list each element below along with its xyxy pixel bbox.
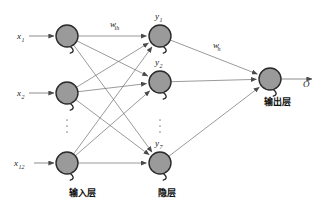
node-group bbox=[56, 25, 281, 180]
node-input-2 bbox=[56, 152, 78, 180]
edge-input0-hidden2 bbox=[73, 45, 152, 152]
node-circle-input-1 bbox=[56, 82, 78, 104]
w-input-hidden-label-sub: ih bbox=[115, 25, 120, 31]
node-circle-output-0 bbox=[259, 68, 281, 90]
edge-input1-hidden1 bbox=[78, 84, 147, 92]
node-shadow-input-1 bbox=[70, 103, 73, 110]
node-circle-input-0 bbox=[56, 25, 78, 47]
w-input-hidden-label: wih bbox=[110, 19, 119, 31]
hidden-label-1: y2 bbox=[154, 57, 163, 69]
input-label-2-base: x bbox=[13, 158, 18, 168]
hidden-label-0: y1 bbox=[154, 11, 163, 23]
node-shadow-output-0 bbox=[273, 89, 276, 96]
hidden-label-1-sub: 2 bbox=[160, 63, 163, 69]
node-hidden-1 bbox=[149, 71, 171, 99]
output-signal-label: O bbox=[303, 79, 310, 89]
node-shadow-input-0 bbox=[70, 46, 73, 53]
node-shadow-input-2 bbox=[70, 173, 73, 180]
w-hidden-output-label: wh bbox=[213, 40, 221, 52]
ellipsis-dot-input-0 bbox=[66, 119, 68, 121]
node-shadow-hidden-1 bbox=[163, 92, 166, 99]
input-label-1-sub: 2 bbox=[22, 94, 25, 100]
ellipsis-dot-input-1 bbox=[66, 125, 68, 127]
input-hidden-edge-group bbox=[73, 36, 152, 163]
node-circle-hidden-1 bbox=[149, 71, 171, 93]
edge-input2-hidden0 bbox=[73, 47, 152, 154]
ellipsis-group bbox=[66, 119, 161, 133]
ellipsis-dot-input-2 bbox=[66, 131, 68, 133]
node-input-0 bbox=[56, 25, 78, 53]
layer-caption-output: 输出层 bbox=[264, 96, 291, 107]
ellipsis-dot-hidden-0 bbox=[159, 119, 161, 121]
layer-caption-hidden: 隐层 bbox=[158, 187, 176, 198]
hidden-label-2: y7 bbox=[154, 138, 164, 150]
edge-hidden1-output0 bbox=[171, 79, 257, 81]
node-circle-hidden-2 bbox=[149, 152, 171, 174]
hidden-label-2-sub: 7 bbox=[160, 144, 164, 150]
node-shadow-hidden-0 bbox=[163, 46, 166, 53]
hidden-label-0-base: y bbox=[154, 11, 159, 21]
hidden-label-1-base: y bbox=[154, 57, 159, 67]
hidden-label-0-sub: 1 bbox=[160, 17, 163, 23]
input-arrow-group bbox=[29, 36, 54, 163]
hidden-output-edge-group bbox=[169, 40, 260, 156]
node-circle-hidden-0 bbox=[149, 25, 171, 47]
edge-hidden2-output0 bbox=[169, 87, 260, 156]
input-label-2: x12 bbox=[13, 158, 25, 170]
ellipsis-dot-hidden-1 bbox=[159, 125, 161, 127]
input-label-1-base: x bbox=[16, 88, 21, 98]
node-shadow-hidden-2 bbox=[163, 173, 166, 180]
input-label-0-sub: 1 bbox=[22, 37, 25, 43]
input-label-0-base: x bbox=[16, 31, 21, 41]
node-hidden-0 bbox=[149, 25, 171, 53]
w-hidden-output-label-sub: h bbox=[218, 46, 221, 52]
output-signal-label-base: O bbox=[303, 79, 310, 89]
network-canvas: x1x2x12y1y2y7wihwhO输入层隐层输出层 bbox=[0, 0, 324, 212]
hidden-label-2-base: y bbox=[154, 138, 159, 148]
edge-input1-hidden2 bbox=[76, 100, 149, 155]
ellipsis-dot-hidden-2 bbox=[159, 131, 161, 133]
node-input-1 bbox=[56, 82, 78, 110]
input-label-2-sub: 12 bbox=[19, 164, 25, 170]
node-circle-input-2 bbox=[56, 152, 78, 174]
input-label-0: x1 bbox=[16, 31, 25, 43]
neural-network-diagram: x1x2x12y1y2y7wihwhO输入层隐层输出层 bbox=[0, 0, 324, 212]
input-label-1: x2 bbox=[16, 88, 25, 100]
edge-input1-hidden0 bbox=[76, 43, 148, 87]
layer-caption-input: 输入层 bbox=[69, 187, 96, 198]
node-hidden-2 bbox=[149, 152, 171, 180]
edge-input0-hidden1 bbox=[77, 41, 148, 76]
node-output-0 bbox=[259, 68, 281, 96]
